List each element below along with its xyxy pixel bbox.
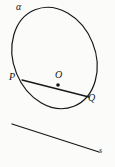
line-s [12,124,99,152]
ellipse-label-alpha: α [16,2,21,12]
line-label-s: s [99,147,102,155]
point-label-o: O [55,70,62,80]
ellipse-alpha [0,0,112,122]
chord-pq [22,80,89,97]
point-label-p: P [9,72,15,82]
point-label-q: Q [88,93,95,103]
figure-canvas [0,0,115,167]
geometry-figure: α P O Q s [0,0,115,167]
center-point-dot [56,83,60,87]
